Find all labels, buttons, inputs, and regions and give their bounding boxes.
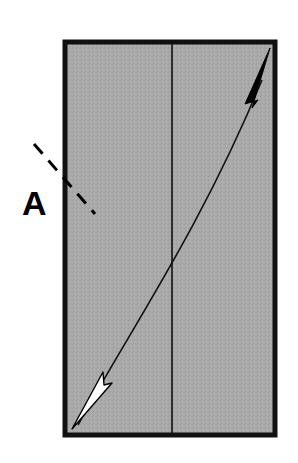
panel-rectangle	[65, 42, 275, 435]
diagram-canvas	[0, 0, 298, 463]
label-a: A	[22, 186, 47, 220]
